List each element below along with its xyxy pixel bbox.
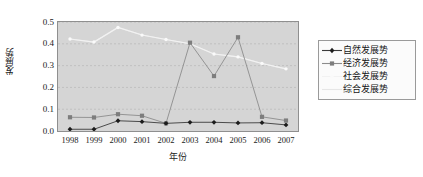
y-tick-label: 0.3 — [32, 61, 54, 70]
series-line — [70, 37, 286, 123]
chart-figure: 发展势 0.00.10.20.30.40.5 19981999200020012… — [0, 0, 423, 177]
data-point — [212, 120, 217, 125]
legend-marker-icon — [321, 57, 343, 70]
legend-marker-icon — [321, 83, 343, 96]
data-point — [92, 127, 97, 131]
data-point — [284, 118, 288, 122]
series-2 — [68, 26, 287, 71]
x-tick-label: 2007 — [271, 135, 301, 145]
data-point — [212, 74, 216, 78]
data-point — [260, 120, 265, 125]
data-point — [140, 119, 145, 124]
legend-label: 综合发展势 — [343, 83, 388, 96]
legend-label: 经济发展势 — [343, 57, 388, 70]
y-tick-label: 0.2 — [32, 83, 54, 92]
legend-item-0[interactable]: 自然发展势 — [321, 44, 412, 57]
legend-label: 社会发展势 — [343, 70, 388, 83]
data-point — [284, 122, 289, 127]
data-point — [236, 121, 241, 126]
y-tick-label: 0.0 — [32, 127, 54, 136]
data-point — [260, 62, 263, 65]
plot-svg — [58, 22, 298, 131]
data-point — [68, 115, 72, 119]
series-line — [70, 27, 286, 68]
y-axis-title: 发展势 — [2, 48, 16, 75]
data-point — [68, 37, 71, 40]
series-3 — [70, 27, 286, 68]
data-point — [116, 118, 121, 123]
legend: 自然发展势经济发展势社会发展势综合发展势 — [318, 40, 416, 100]
legend-marker-icon — [321, 44, 343, 57]
legend-item-3[interactable]: 综合发展势 — [321, 83, 412, 96]
data-point — [236, 35, 240, 39]
legend-marker-icon — [321, 70, 343, 83]
data-point — [92, 40, 95, 43]
data-point — [284, 67, 287, 70]
data-point — [116, 26, 119, 29]
y-tick-label: 0.4 — [32, 39, 54, 48]
data-point — [68, 127, 73, 131]
series-line — [70, 27, 286, 68]
data-point — [212, 52, 215, 55]
legend-item-1[interactable]: 经济发展势 — [321, 57, 412, 70]
y-tick-label: 0.1 — [32, 105, 54, 114]
series-1 — [68, 35, 288, 125]
data-point — [116, 112, 120, 116]
plot-area — [57, 21, 299, 132]
legend-label: 自然发展势 — [343, 44, 388, 57]
y-tick-label: 0.5 — [32, 18, 54, 27]
data-point — [140, 114, 144, 118]
series-0 — [68, 118, 289, 131]
legend-item-2[interactable]: 社会发展势 — [321, 70, 412, 83]
data-point — [188, 41, 192, 45]
x-axis-title: 年份 — [57, 150, 299, 163]
data-point — [260, 115, 264, 119]
data-point — [188, 120, 193, 125]
series-line — [70, 121, 286, 130]
y-axis-tick-labels: 0.00.10.20.30.40.5 — [18, 0, 54, 177]
data-point — [92, 115, 96, 119]
data-point — [236, 55, 239, 58]
data-point — [140, 33, 143, 36]
data-point — [164, 38, 167, 41]
x-axis-tick-labels: 1998199920002001200220032004200520062007 — [57, 135, 299, 149]
